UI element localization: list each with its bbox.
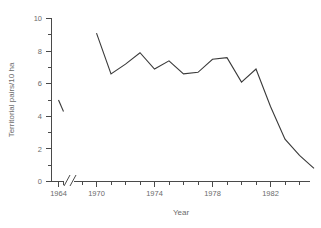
x-tick-label-1974: 1974 (146, 189, 163, 198)
x-axis-minor-ticks (64, 182, 300, 186)
x-tick-label-1964: 1964 (50, 189, 67, 198)
data-line-main-segment (97, 33, 315, 168)
y-tick-label-4: 4 (38, 112, 42, 121)
break-mark-left (64, 175, 70, 186)
x-tick-label-1982: 1982 (262, 189, 279, 198)
x-axis-break-marks (64, 175, 76, 186)
y-tick-label-10: 10 (34, 14, 42, 23)
y-tick-label-8: 8 (38, 47, 42, 56)
line-chart-plot: 10 8 6 4 2 0 (0, 0, 321, 228)
y-axis-tick-labels: 10 8 6 4 2 0 (34, 14, 42, 186)
x-tick-label-1978: 1978 (204, 189, 221, 198)
x-tick-label-1970: 1970 (88, 189, 105, 198)
data-line-early-segment (59, 100, 64, 111)
x-axis-major-ticks (59, 182, 271, 188)
y-tick-label-2: 2 (38, 145, 42, 154)
y-tick-label-0: 0 (38, 177, 42, 186)
y-tick-label-6: 6 (38, 79, 42, 88)
y-axis-minor-ticks (48, 35, 52, 165)
y-axis-title: Territorial pairs/10 ha (7, 62, 16, 137)
break-mark-right (70, 175, 76, 186)
chart-figure: 10 8 6 4 2 0 (0, 0, 321, 228)
x-axis-tick-labels: 1964 1970 1974 1978 1982 (50, 189, 279, 198)
x-axis-title: Year (173, 208, 190, 217)
